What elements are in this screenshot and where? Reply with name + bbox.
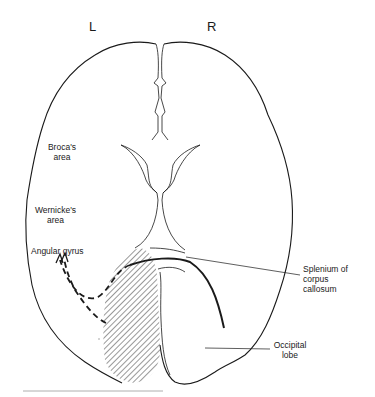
right-hemisphere-outline	[160, 42, 293, 384]
dashed-pathway-lower	[64, 258, 106, 323]
occipital-lobe-label: Occipital lobe	[268, 340, 312, 360]
angular-gyrus-label: Angular gyrus	[31, 246, 83, 256]
speck	[98, 338, 99, 339]
splenium-corpus-callosum	[150, 248, 185, 253]
right-occipital-medial	[160, 272, 170, 375]
splenium-lower	[158, 267, 185, 272]
broca-area-label: Broca's area	[42, 142, 82, 162]
septum	[135, 200, 185, 250]
lateral-ventricle-right	[162, 145, 200, 200]
brain-diagram	[0, 0, 375, 397]
splenium-label: Splenium of corpus callosum	[303, 264, 348, 294]
splenium-leader-line	[186, 257, 300, 275]
hatched-lesion	[103, 248, 160, 383]
wernicke-area-label: Wernicke's area	[28, 205, 83, 225]
lateral-ventricle-left	[121, 145, 158, 200]
occipital-leader-line	[205, 348, 270, 349]
left-hemisphere-label: L	[89, 19, 96, 34]
longitudinal-fissure	[152, 44, 168, 140]
right-hemisphere-label: R	[207, 19, 216, 34]
